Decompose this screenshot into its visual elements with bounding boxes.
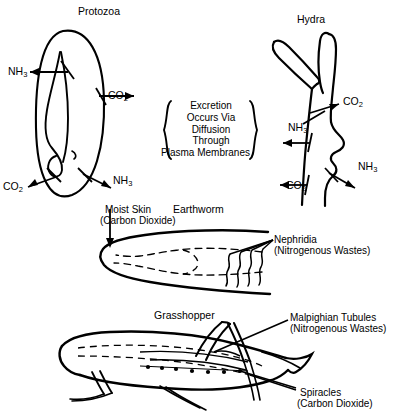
hydra-nh3-left-label: NH3 [288,122,307,133]
chem-text: NH [288,121,303,133]
hydra-figure [273,33,355,206]
protozoa-co2-right-label: CO2 [108,90,128,101]
caption-line-5: Plasma Membranes [160,147,251,159]
hydra-title: Hydra [297,14,325,25]
caption-line-3: Diffusion [171,124,251,136]
malpighian-line-2: (Nitrogenous Wastes) [290,324,386,335]
grasshopper-title: Grasshopper [154,310,215,321]
chem-text: NH [113,174,128,186]
caption-line-2: Occurs Via [171,112,251,124]
excretion-caption: Excretion Occurs Via Diffusion Through P… [171,100,251,159]
chem-sub: 3 [128,179,132,188]
chem-text: CO [286,179,302,191]
earthworm-title: Earthworm [173,204,224,215]
chem-sub: 2 [19,185,23,194]
malpighian-tubules-callout: Malpighian Tubules (Nitrogenous Wastes) [290,313,386,335]
chem-text: CO [108,89,124,101]
protozoa-figure [28,31,134,197]
chem-text: NH [358,160,373,172]
chem-sub: 2 [302,184,306,193]
nephridia-callout: Nephridia (Nitrogenous Wastes) [274,235,370,257]
protozoa-title: Protozoa [78,6,120,17]
hydra-nh3-right-label: NH3 [358,161,377,172]
caption-line-1: Excretion [171,100,251,112]
hydra-co2-upper-label: CO2 [343,96,363,107]
chem-sub: 2 [359,100,363,109]
chem-sub: 3 [23,70,27,79]
spiracles-callout: Spiracles (Carbon Dioxide) [300,388,373,410]
protozoa-co2-lower-label: CO2 [3,181,23,192]
chem-sub: 3 [373,165,377,174]
protozoa-nh3-lower-label: NH3 [113,175,132,186]
chem-text: NH [8,65,23,77]
protozoa-nh3-upper-label: NH3 [8,66,27,77]
caption-line-4: Through [171,135,251,147]
hydra-co2-lower-label: CO2 [286,180,306,191]
chem-text: CO [3,180,19,192]
chem-sub: 3 [303,126,307,135]
chem-text: CO [343,95,359,107]
chem-sub: 2 [124,94,128,103]
moist-skin-line-2: (Carbon Dioxide) [100,216,176,227]
moist-skin-callout: Moist Skin (Carbon Dioxide) [105,205,176,227]
nephridia-line-2: (Nitrogenous Wastes) [274,246,370,257]
grasshopper-figure [60,320,312,410]
spiracles-line-2: (Carbon Dioxide) [297,399,373,410]
